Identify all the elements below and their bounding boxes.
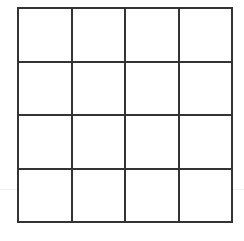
grid-cell xyxy=(18,8,72,62)
grid-cell xyxy=(125,169,179,223)
grid-cell xyxy=(125,115,179,169)
grid-cell xyxy=(125,62,179,116)
grid-cell xyxy=(179,115,233,169)
grid-cell xyxy=(72,169,126,223)
grid-cell xyxy=(18,169,72,223)
grid-cell xyxy=(179,8,233,62)
four-by-four-grid xyxy=(17,7,233,223)
grid-cell xyxy=(179,169,233,223)
grid-cell xyxy=(18,62,72,116)
grid-cell xyxy=(125,8,179,62)
grid-cell xyxy=(72,8,126,62)
grid-cell xyxy=(18,115,72,169)
grid-cell xyxy=(72,115,126,169)
grid-cell xyxy=(179,62,233,116)
grid-cell xyxy=(72,62,126,116)
